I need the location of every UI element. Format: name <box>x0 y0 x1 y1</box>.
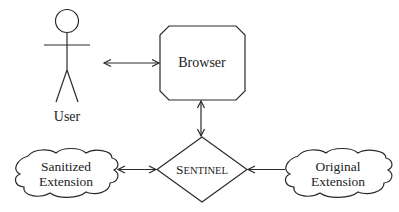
sanitized-label-line1: Sanitized <box>41 159 91 174</box>
user-stick-figure-icon <box>44 10 90 103</box>
original-sentinel-arrow <box>248 166 285 173</box>
sentinel-label-initial: S <box>176 162 184 177</box>
user-browser-arrow <box>104 60 159 67</box>
sentinel-label-rest: ENTINEL <box>184 165 228 176</box>
sentinel-label: SENTINEL <box>176 162 228 177</box>
sanitized-sentinel-arrow <box>118 166 156 173</box>
original-label-line1: Original <box>316 159 361 174</box>
user-label: User <box>54 109 81 124</box>
sanitized-label-line2: Extension <box>39 174 93 189</box>
original-label-line2: Extension <box>311 174 365 189</box>
architecture-diagram: User Browser SENTINEL Sanitized Extensio… <box>0 0 399 212</box>
browser-sentinel-arrow <box>198 101 205 136</box>
browser-label: Browser <box>178 55 226 70</box>
